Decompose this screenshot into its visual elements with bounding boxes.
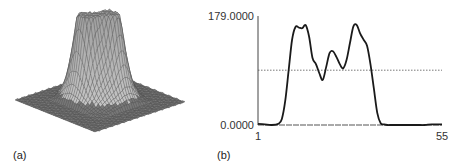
surface-mesh — [15, 9, 185, 132]
x-tick-label-min: 1 — [255, 130, 261, 142]
line-chart: 179.0000 0.0000 1 55 — [200, 0, 452, 168]
surface-plot — [0, 0, 200, 168]
surface-plot-panel — [0, 0, 200, 168]
y-tick-label-max: 179.0000 — [208, 10, 254, 22]
x-tick-label-max: 55 — [436, 130, 448, 142]
y-tick-label-min: 0.0000 — [220, 119, 254, 131]
panel-label-a: (a) — [13, 149, 26, 161]
line-chart-panel: 179.0000 0.0000 1 55 — [200, 0, 452, 168]
panel-label-b: (b) — [217, 149, 230, 161]
series-line — [258, 24, 442, 125]
